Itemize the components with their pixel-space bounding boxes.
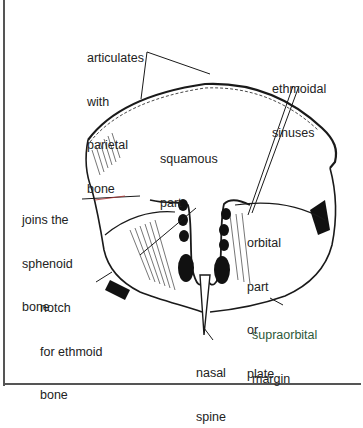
label-ethmoidal-sinuses: ethmoidal sinuses bbox=[272, 53, 326, 155]
label-articulates-with-parietal-bone: articulates with parietal bone bbox=[87, 22, 144, 211]
pointer-articulates-2 bbox=[147, 52, 210, 74]
label-notch-for-ethmoid-bone: notch for ethmoid bone bbox=[40, 272, 103, 417]
nasal-spine-shape bbox=[200, 275, 210, 335]
label-supraorbital-margin: supraorbital margin bbox=[252, 299, 317, 401]
label-nasal-spine: nasal spine bbox=[196, 337, 226, 428]
label-squamous-part: squamous part bbox=[160, 123, 218, 225]
